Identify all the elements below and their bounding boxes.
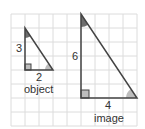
image-height-label: 6 [72,51,78,62]
object-right-angle-marker [25,64,31,70]
object-height-label: 3 [16,43,22,54]
image-right-angle-marker [81,90,89,98]
object-base-label: 2 [36,72,42,83]
object-caption: object [24,84,53,95]
image-base-label: 4 [105,100,111,111]
image-caption: image [94,113,124,124]
grid-diagram [0,0,145,129]
